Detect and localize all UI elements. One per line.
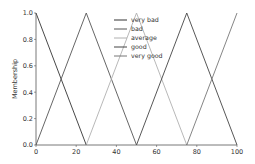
membership-chart: 0204060801000.00.20.40.60.81.0 very badb…	[0, 0, 255, 164]
x-tick-label: 60	[152, 148, 160, 156]
y-tick-label: 0.2	[23, 115, 33, 123]
x-tick-label: 100	[231, 148, 243, 156]
x-tick-label: 80	[193, 148, 201, 156]
legend-label: average	[131, 34, 157, 42]
plot-lines	[36, 13, 237, 145]
x-tick-label: 20	[72, 148, 80, 156]
y-tick-label: 0.4	[23, 89, 33, 97]
y-axis-label: Membership	[11, 59, 19, 99]
legend-label: very bad	[131, 16, 159, 24]
y-tick-label: 0.6	[23, 62, 33, 70]
y-tick-label: 1.0	[23, 9, 33, 17]
x-tick-label: 40	[112, 148, 120, 156]
legend-label: very good	[131, 52, 163, 60]
series-line-good	[137, 13, 238, 145]
y-tick-label: 0.8	[23, 36, 33, 44]
series-line-bad	[36, 13, 137, 145]
series-line-average	[86, 13, 187, 145]
legend-label: good	[131, 43, 147, 51]
x-tick-label: 0	[34, 148, 38, 156]
y-tick-label: 0.0	[23, 141, 33, 149]
legend-label: bad	[131, 25, 143, 32]
